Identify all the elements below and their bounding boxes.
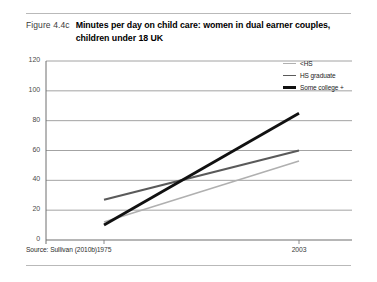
chart-svg [0,0,377,282]
legend-swatch [283,75,296,77]
x-axis-tick-label: 2003 [279,246,319,253]
legend-label: HS graduate [300,72,335,79]
y-axis-tick-label: 40 [20,175,40,182]
y-axis-tick-label: 0 [20,235,40,242]
legend-swatch [283,86,296,88]
figure-container: Figure 4.4c Minutes per day on child car… [0,0,377,282]
chart-plot-area: 020406080100120 19752003 [0,0,377,282]
y-axis-tick-label: 60 [20,146,40,153]
legend-item: HS graduate [283,70,344,81]
source-note: Source: Sullivan (2010b) [26,246,97,253]
y-axis-tick-label: 80 [20,116,40,123]
legend-label: <HS [300,60,313,67]
series-line [104,113,299,225]
y-axis-tick-label: 20 [20,205,40,212]
chart-legend: <HSHS graduateSome college + [283,58,344,94]
legend-swatch [283,63,296,64]
y-axis-tick-label: 100 [20,86,40,93]
legend-label: Some college + [300,84,344,91]
bottom-divider-rule [26,265,351,266]
series-lines-group [104,113,299,225]
axes-group [46,61,299,244]
legend-item: Some college + [283,82,344,93]
legend-item: <HS [283,58,344,69]
y-axis-tick-label: 120 [20,56,40,63]
